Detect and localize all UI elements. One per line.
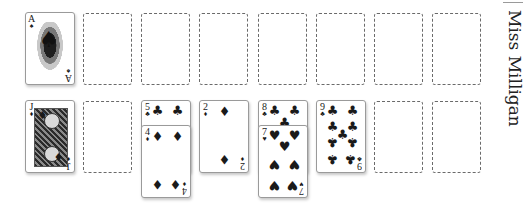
club-icon: ♣ [171,104,184,117]
game-title: Miss Milligan [505,10,525,127]
diamond-icon: ♦ [52,150,65,163]
club-icon: ♣ [346,136,359,149]
tableau-3-four-of-diamonds[interactable]: 4♦ ♦ ♦ ♦ ♦ 4♦ [141,125,191,198]
foundation-slot-8[interactable] [432,13,481,85]
card-index-bottom: 4♦ [181,180,188,196]
diamond-icon: ♦ [218,105,231,118]
foundation-1-ace-of-spades[interactable]: A♠ ♠ A♠ [25,12,75,85]
card-index: 8♣ [261,102,268,118]
heart-icon: ♥ [278,140,291,153]
tableau-4-two-of-diamonds[interactable]: 2♦ ♦ ♦ 2♦ [199,100,249,173]
diamond-icon: ♦ [218,153,231,166]
tableau-slot-8[interactable] [432,101,481,173]
foundation-slot-2[interactable] [83,13,132,85]
card-index: 7♥ [261,127,268,143]
card-index-bottom: J♦ [65,155,72,171]
card-index: A♠ [28,14,35,30]
card-index: 5♣ [144,102,151,118]
tableau-1-jack-of-diamonds[interactable]: J♦ ♦ ♦ J♦ [25,100,75,173]
foundation-slot-6[interactable] [316,13,365,85]
spade-icon: ♠ [39,29,59,51]
card-index-bottom: 9♣ [356,155,363,171]
diamond-icon: ♦ [151,130,164,143]
card-index: 2♦ [202,102,209,118]
tableau-slot-2[interactable] [83,101,132,173]
card-index: 4♦ [144,127,151,143]
card-index-bottom: 7♥ [298,180,305,196]
title-divider [503,2,523,3]
heart-icon: ♥ [268,158,281,171]
club-icon: ♣ [151,104,164,117]
card-index-bottom: A♠ [65,67,72,83]
tableau-slot-7[interactable] [374,101,423,173]
diamond-icon: ♦ [151,178,164,191]
club-icon: ♣ [326,136,339,149]
club-icon: ♣ [346,104,359,117]
card-index: 9♣ [319,102,326,118]
foundation-slot-4[interactable] [199,13,248,85]
tableau-5-seven-of-hearts[interactable]: 7♥ ♥ ♥ ♥ ♥ ♥ ♥ ♥ 7♥ [258,125,308,198]
heart-icon: ♥ [288,158,301,171]
club-icon: ♣ [326,104,339,117]
foundation-slot-7[interactable] [374,13,423,85]
diamond-icon: ♦ [171,130,184,143]
club-icon: ♣ [326,153,339,166]
card-index-bottom: 2♦ [239,155,246,171]
title-panel: Miss Milligan [503,2,525,202]
foundation-slot-3[interactable] [141,13,190,85]
diamond-icon: ♦ [36,109,49,122]
tableau-6-nine-of-clubs[interactable]: 9♣ ♣ ♣ ♣ ♣ ♣ ♣ ♣ ♣ ♣ 9♣ [316,100,366,173]
heart-icon: ♥ [268,179,281,192]
foundation-slot-5[interactable] [258,13,307,85]
